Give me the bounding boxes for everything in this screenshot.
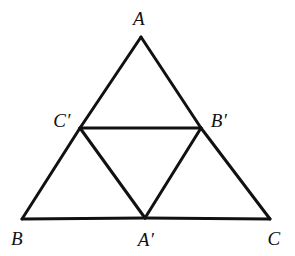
vertex-label-B: B [11, 229, 23, 248]
segment-B-prime-C [201, 128, 270, 219]
segment-B-A-prime [22, 218, 145, 219]
vertex-label-A-prime: A′ [138, 230, 154, 249]
triangle-diagram-canvas [0, 0, 295, 256]
vertex-label-C-prime: C′ [53, 111, 70, 130]
segment-A-prime-B-prime [145, 128, 201, 218]
vertex-label-A: A [133, 9, 145, 28]
segment-A-C-prime [80, 37, 141, 128]
segment-C-prime-A-prime [80, 128, 145, 218]
segment-C-prime-B [22, 128, 80, 219]
segment-A-prime-C [145, 218, 270, 219]
vertex-label-C: C [268, 229, 281, 248]
geometry-figure: A B C A′ B′ C′ [0, 0, 295, 256]
vertex-label-B-prime: B′ [211, 111, 227, 130]
segment-A-B-prime [141, 37, 201, 128]
